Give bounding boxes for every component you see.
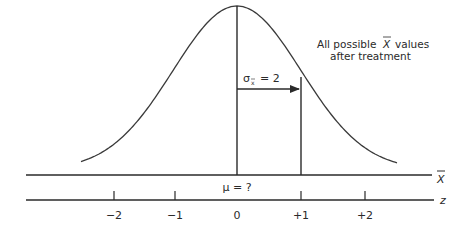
z-tick-label: 0 [234,209,241,222]
z-tick-label: −1 [167,209,183,222]
svg-text:= 2: = 2 [260,72,280,85]
normal-distribution-diagram: −2 −1 0 +1 +2 μ = ? X z σ x = 2 All poss… [0,0,470,231]
z-tick-label: −2 [106,209,122,222]
xbar-axis-label: X [436,173,445,186]
svg-text:values: values [395,38,429,50]
sigma-label: σ x = 2 [243,72,280,86]
normal-curve [81,6,397,163]
svg-text:x: x [251,79,255,86]
mu-label: μ = ? [222,181,251,194]
diagram-canvas: −2 −1 0 +1 +2 μ = ? X z σ x = 2 All poss… [0,0,470,231]
annotation-text: All possible X values after treatment [317,37,429,62]
svg-text:All possible: All possible [317,38,376,50]
svg-text:after treatment: after treatment [330,50,411,62]
z-tick-label: +1 [293,209,309,222]
z-tick-label: +2 [357,209,373,222]
z-axis-label: z [439,194,446,207]
svg-text:σ: σ [243,72,250,85]
svg-text:X: X [382,38,391,50]
